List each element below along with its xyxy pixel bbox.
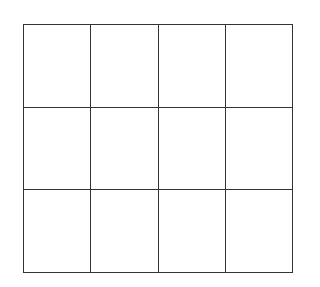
grid-cell-r1-c3 (159, 25, 226, 108)
grid-cell-r1-c2 (91, 25, 158, 108)
grid-cell-r3-c4 (226, 190, 293, 273)
grid-cell-r2-c3 (159, 108, 226, 191)
grid-cell-r3-c1 (24, 190, 91, 273)
grid-cell-r1-c4 (226, 25, 293, 108)
grid-cell-r2-c2 (91, 108, 158, 191)
grid-cell-r3-c3 (159, 190, 226, 273)
grid-cell-r3-c2 (91, 190, 158, 273)
grid-cell-r2-c1 (24, 108, 91, 191)
grid-cell-r1-c1 (24, 25, 91, 108)
grid-3x4 (23, 24, 293, 273)
grid-cell-r2-c4 (226, 108, 293, 191)
